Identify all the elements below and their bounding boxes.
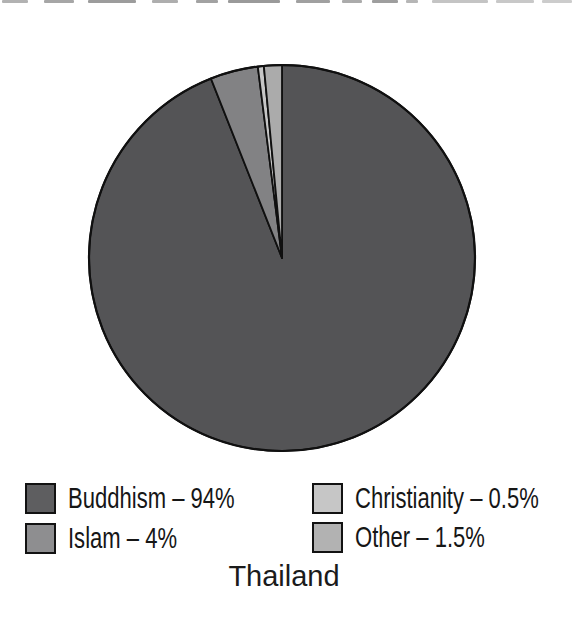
pie-slices	[89, 65, 475, 451]
other-swatch-icon	[312, 522, 343, 553]
buddhism-swatch-icon	[25, 483, 56, 514]
chart-title: Thailand	[228, 560, 339, 593]
scanned-page: Buddhism – 94% Islam – 4% Christianity –…	[0, 0, 579, 622]
christianity-swatch-icon	[312, 483, 343, 514]
legend-label-buddhism: Buddhism – 94%	[68, 482, 235, 515]
legend-label-islam: Islam – 4%	[68, 522, 177, 555]
legend-label-christianity: Christianity – 0.5%	[355, 482, 539, 515]
legend-label-other: Other – 1.5%	[355, 521, 485, 554]
islam-swatch-icon	[25, 523, 56, 554]
legend-item-buddhism: Buddhism – 94%	[25, 482, 287, 514]
legend-item-christianity: Christianity – 0.5%	[312, 482, 579, 514]
legend-item-other: Other – 1.5%	[312, 521, 526, 553]
legend-item-islam: Islam – 4%	[25, 522, 211, 554]
